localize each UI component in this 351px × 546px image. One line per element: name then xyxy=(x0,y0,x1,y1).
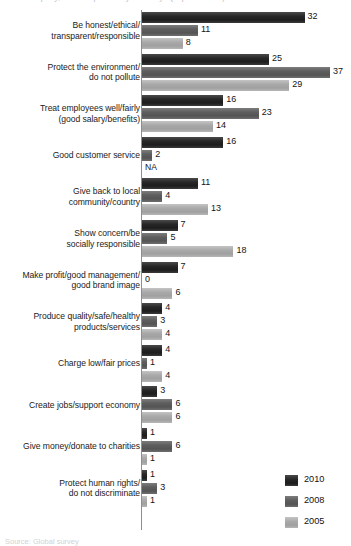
category-label: Protect human rights/ do not discriminat… xyxy=(59,478,140,499)
bar-value-label: 11 xyxy=(201,177,210,187)
bar-value-label: 14 xyxy=(216,120,226,130)
legend-label: 2008 xyxy=(304,495,324,505)
bar-2005 xyxy=(142,371,162,382)
bar-2010 xyxy=(142,178,198,189)
bar-2005 xyxy=(142,454,147,465)
bar-2005 xyxy=(142,121,213,132)
legend-swatch-2010 xyxy=(285,475,298,486)
category-label: Show concern/be socially responsible xyxy=(66,228,140,249)
bar-2005 xyxy=(142,412,172,423)
category-label: Good customer service xyxy=(53,150,140,160)
bar-value-label: 37 xyxy=(333,66,343,76)
bar-value-label: 32 xyxy=(308,11,318,21)
category-label: Make profit/good management/ good brand … xyxy=(22,270,140,291)
bar-2008 xyxy=(142,25,198,36)
bar-value-label: 18 xyxy=(236,245,246,255)
bar-value-label: 16 xyxy=(226,136,236,146)
bar-value-label: 4 xyxy=(165,302,170,312)
bar-value-label: 25 xyxy=(272,53,282,63)
bar-2010 xyxy=(142,303,162,314)
bar-2008 xyxy=(142,358,147,369)
legend-swatch-2008 xyxy=(285,496,298,507)
bar-value-label: NA xyxy=(145,162,157,172)
category-label: Be honest/ethical/ transparent/responsib… xyxy=(51,20,140,41)
bar-value-label: 1 xyxy=(150,469,155,479)
bar-value-label: 1 xyxy=(150,427,155,437)
category-label: Give back to local community/country xyxy=(69,186,140,207)
bar-value-label: 29 xyxy=(292,79,302,89)
category-label: Give money/donate to charities xyxy=(23,441,140,451)
bar-value-label: 8 xyxy=(186,37,191,47)
bar-value-label: 6 xyxy=(175,287,180,297)
bar-value-label: 7 xyxy=(181,219,186,229)
bar-2005 xyxy=(142,496,147,507)
bar-2010 xyxy=(142,54,269,65)
bar-2005 xyxy=(142,246,233,257)
bar-value-label: 16 xyxy=(226,94,236,104)
bar-2005 xyxy=(142,80,289,91)
bar-value-label: 1 xyxy=(150,357,155,367)
bar-value-label: 0 xyxy=(145,274,150,284)
bar-2010 xyxy=(142,137,223,148)
bar-value-label: 6 xyxy=(175,411,180,421)
bar-value-label: 6 xyxy=(175,398,180,408)
bar-2008 xyxy=(142,150,152,161)
category-label: Treat employees well/fairly (good salary… xyxy=(40,103,140,124)
bar-2008 xyxy=(142,233,167,244)
bar-2008 xyxy=(142,441,172,452)
bar-2005 xyxy=(142,38,183,49)
bar-2010 xyxy=(142,220,178,231)
bar-2005 xyxy=(142,329,162,340)
legend-swatch-2005 xyxy=(285,517,298,528)
clipped-source-note: Source: Global survey xyxy=(5,537,79,546)
bar-2010 xyxy=(142,95,223,106)
bar-2008 xyxy=(142,483,157,494)
bar-2008 xyxy=(142,108,259,119)
bar-value-label: 6 xyxy=(175,440,180,450)
bar-2010 xyxy=(142,386,157,397)
bar-value-label: 4 xyxy=(165,328,170,338)
bar-value-label: 11 xyxy=(201,24,210,34)
category-label: Produce quality/safe/healthy products/se… xyxy=(33,311,140,332)
bar-value-label: 23 xyxy=(262,107,272,117)
bar-value-label: 2 xyxy=(155,149,160,159)
bar-2010 xyxy=(142,470,147,481)
category-label: Charge low/fair prices xyxy=(58,358,140,368)
bar-2008 xyxy=(142,191,162,202)
legend-label: 2005 xyxy=(304,516,324,526)
bar-2010 xyxy=(142,262,178,273)
bar-value-label: 3 xyxy=(160,482,165,492)
bar-2010 xyxy=(142,428,147,439)
bar-value-label: 4 xyxy=(165,190,170,200)
bar-value-label: 3 xyxy=(160,315,165,325)
bar-2010 xyxy=(142,345,162,356)
bar-value-label: 7 xyxy=(181,261,186,271)
bar-value-label: 13 xyxy=(211,203,221,213)
category-label: Protect the environment/ do not pollute xyxy=(48,62,140,83)
bar-2010 xyxy=(142,12,305,23)
bar-2005 xyxy=(142,288,172,299)
bar-2008 xyxy=(142,316,157,327)
bar-value-label: 1 xyxy=(150,495,155,505)
bar-value-label: 3 xyxy=(160,385,165,395)
bar-2008 xyxy=(142,399,172,410)
category-label: Create jobs/support economy xyxy=(29,400,140,410)
bar-value-label: 4 xyxy=(165,370,170,380)
legend-label: 2010 xyxy=(304,474,324,484)
bar-value-label: 4 xyxy=(165,344,170,354)
bar-2008 xyxy=(142,67,330,78)
bar-value-label: 5 xyxy=(170,232,175,242)
bar-value-label: 1 xyxy=(150,453,155,463)
clipped-chart-title: …of company, what responsibility…society… xyxy=(8,0,225,2)
bar-2005 xyxy=(142,204,208,215)
